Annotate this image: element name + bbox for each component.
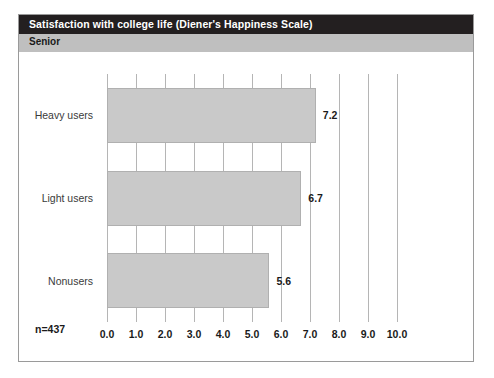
bar — [107, 88, 316, 143]
bar — [107, 171, 301, 226]
x-tick-label: 6.0 — [274, 328, 289, 340]
x-tick-label: 1.0 — [129, 328, 144, 340]
bar-row: Light users6.7 — [107, 171, 397, 226]
bar-row: Nonusers5.6 — [107, 253, 397, 308]
x-tick-label: 3.0 — [187, 328, 202, 340]
x-tick-label: 9.0 — [361, 328, 376, 340]
category-label: Heavy users — [35, 109, 93, 121]
chart-frame: Satisfaction with college life (Diener's… — [18, 14, 474, 362]
chart-screenshot: Satisfaction with college life (Diener's… — [0, 0, 494, 378]
plot-area: Heavy users7.2Light users6.7Nonusers5.60… — [107, 74, 397, 322]
bar-row: Heavy users7.2 — [107, 88, 397, 143]
gridline — [397, 74, 398, 322]
chart-title-bar: Satisfaction with college life (Diener's… — [19, 15, 473, 34]
x-tick-label: 0.0 — [100, 328, 115, 340]
x-tick-label: 7.0 — [303, 328, 318, 340]
bar-value-label: 5.6 — [269, 275, 291, 287]
plot-wrapper: Heavy users7.2Light users6.7Nonusers5.60… — [19, 52, 473, 361]
sample-size-annotation: n=437 — [35, 323, 65, 335]
chart-subtitle: Senior — [29, 36, 60, 47]
chart-title: Satisfaction with college life (Diener's… — [29, 18, 313, 30]
x-tick-label: 4.0 — [216, 328, 231, 340]
x-tick-label: 10.0 — [387, 328, 407, 340]
bar-value-label: 6.7 — [301, 192, 323, 204]
bar — [107, 253, 269, 308]
bar-value-label: 7.2 — [316, 109, 338, 121]
x-tick-label: 2.0 — [158, 328, 173, 340]
chart-subtitle-bar: Senior — [19, 34, 473, 52]
category-label: Light users — [42, 192, 93, 204]
x-tick-label: 8.0 — [332, 328, 347, 340]
category-label: Nonusers — [48, 275, 93, 287]
x-tick-label: 5.0 — [245, 328, 260, 340]
